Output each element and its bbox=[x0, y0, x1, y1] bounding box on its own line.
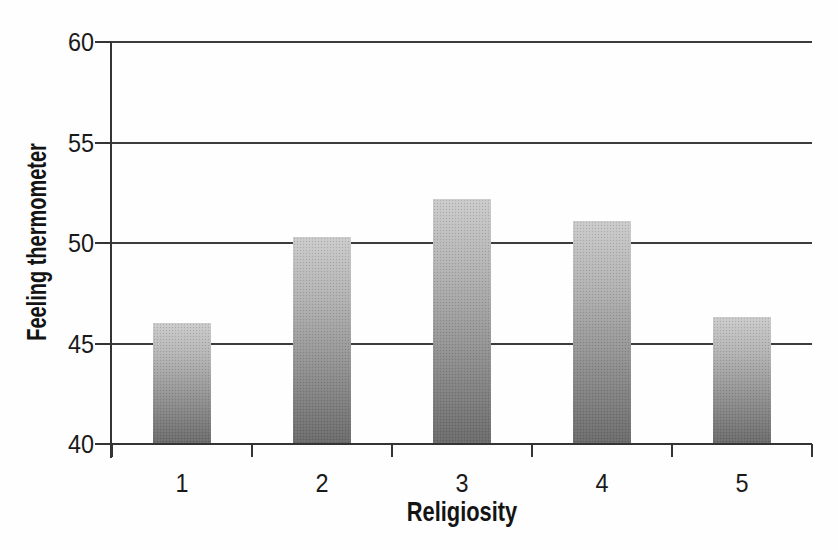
y-axis-tick bbox=[95, 343, 112, 345]
y-axis-tick bbox=[95, 443, 112, 445]
bar bbox=[153, 323, 211, 444]
x-tick-label: 3 bbox=[431, 468, 494, 498]
y-axis-tick bbox=[95, 142, 112, 144]
x-axis-tick bbox=[251, 444, 253, 457]
y-tick-label: 60 bbox=[40, 27, 94, 57]
x-tick-label: 1 bbox=[151, 468, 214, 498]
y-tick-label: 40 bbox=[40, 429, 94, 459]
x-axis-tick bbox=[811, 444, 813, 457]
gridline bbox=[112, 142, 812, 144]
x-axis-line bbox=[110, 443, 812, 445]
x-tick-label: 4 bbox=[571, 468, 634, 498]
bar bbox=[433, 199, 491, 444]
x-tick-label: 5 bbox=[711, 468, 774, 498]
y-axis-tick bbox=[95, 41, 112, 43]
x-axis-tick bbox=[671, 444, 673, 457]
bar bbox=[293, 237, 351, 444]
gridline bbox=[112, 41, 812, 43]
bar-chart-figure: Feeling thermometer 4045505560 12345 Rel… bbox=[0, 0, 838, 550]
y-tick-label: 55 bbox=[40, 128, 94, 158]
y-tick-label: 45 bbox=[40, 329, 94, 359]
bar bbox=[573, 221, 631, 444]
x-axis-title: Religiosity bbox=[345, 496, 579, 528]
bar bbox=[713, 317, 771, 444]
y-axis-tick bbox=[95, 242, 112, 244]
y-tick-label: 50 bbox=[40, 228, 94, 258]
x-axis-tick bbox=[531, 444, 533, 457]
y-axis-line bbox=[110, 41, 112, 458]
x-axis-tick bbox=[391, 444, 393, 457]
x-tick-label: 2 bbox=[291, 468, 354, 498]
x-axis-tick bbox=[111, 444, 113, 457]
